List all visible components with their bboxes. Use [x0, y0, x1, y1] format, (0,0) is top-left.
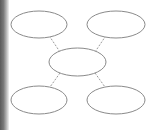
diagram-canvas — [0, 0, 153, 130]
node-center — [49, 48, 106, 76]
connector-bottom-right — [95, 73, 105, 87]
node-bottom-right — [87, 86, 145, 114]
node-top-right — [87, 11, 145, 38]
connector-top-left — [50, 37, 60, 52]
node-top-left — [11, 11, 67, 38]
connector-bottom-left — [50, 73, 60, 87]
connector-top-right — [95, 37, 105, 52]
node-bottom-left — [11, 86, 67, 114]
